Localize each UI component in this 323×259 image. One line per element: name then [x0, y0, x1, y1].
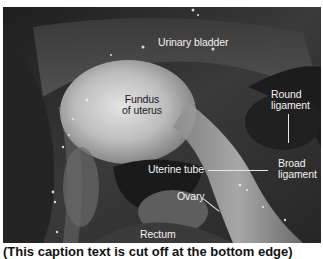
label-broad-ligament: Broad ligament [278, 158, 317, 180]
leader-line-round-ligament [288, 114, 289, 143]
figure-caption-truncated: (This caption text is cut off at the bot… [3, 245, 293, 259]
label-round-ligament: Round ligament [271, 89, 310, 111]
label-fundus-of-uterus: Fundus of uterus [121, 94, 163, 116]
label-uterine-tube: Uterine tube [148, 164, 204, 175]
leader-line-uterine-tube [208, 170, 268, 171]
label-broad-line2: ligament [278, 169, 317, 180]
label-rectum: Rectum [140, 229, 176, 240]
label-urinary-bladder: Urinary bladder [158, 37, 228, 48]
label-round-line2: ligament [271, 100, 310, 111]
label-fundus-line2: of uterus [121, 105, 163, 116]
label-ovary: Ovary [177, 191, 205, 202]
